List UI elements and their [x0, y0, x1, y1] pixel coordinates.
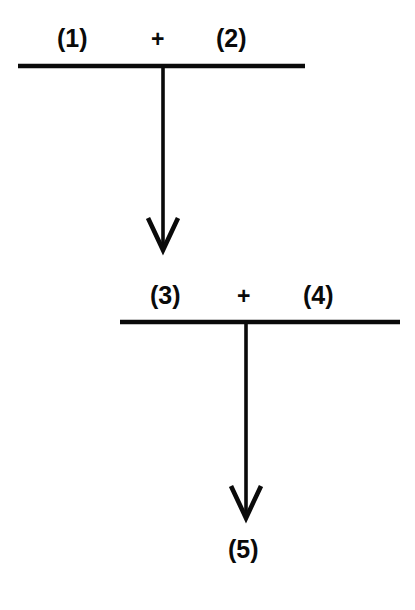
- diagram-canvas: (1) + (2) (3) + (4) (5): [0, 0, 415, 610]
- product-label: (5): [228, 537, 259, 562]
- step2-reactant-left-label: (3): [150, 283, 181, 308]
- step2-graphics: [120, 322, 400, 518]
- step1-reactant-left-label: (1): [57, 26, 88, 51]
- step1-plus-operator: +: [151, 28, 164, 51]
- step1-reactant-right-label: (2): [216, 26, 247, 51]
- step2-reactant-right-label: (4): [303, 283, 334, 308]
- step2-plus-operator: +: [237, 285, 250, 308]
- scheme-graphics: [0, 0, 415, 610]
- step1-graphics: [18, 66, 305, 250]
